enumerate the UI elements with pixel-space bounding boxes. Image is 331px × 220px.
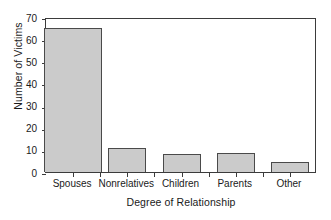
bar bbox=[163, 154, 201, 172]
x-axis-category-label: Parents bbox=[217, 178, 251, 189]
x-axis-boundary-tick-mark bbox=[154, 172, 155, 177]
y-axis-tick-label: 20 bbox=[26, 123, 37, 134]
y-axis-tick-mark bbox=[42, 19, 46, 20]
bar bbox=[44, 28, 102, 172]
y-axis-tick-label: 60 bbox=[26, 35, 37, 46]
x-axis-boundary-tick-mark bbox=[209, 172, 210, 177]
x-axis-category-label: Nonrelatives bbox=[99, 178, 155, 189]
y-axis-tick-label: 40 bbox=[26, 79, 37, 90]
x-axis-tick-mark bbox=[127, 172, 128, 177]
bar-chart-figure: Number of Victims 010203040506070 Degree… bbox=[0, 0, 331, 220]
y-axis-tick-label: 30 bbox=[26, 101, 37, 112]
bar bbox=[108, 148, 146, 172]
y-axis-tick-label: 0 bbox=[31, 168, 37, 179]
y-axis-tick-label: 70 bbox=[26, 13, 37, 24]
y-axis-tick-mark bbox=[42, 174, 46, 175]
x-axis-boundary-tick-mark bbox=[263, 172, 264, 177]
y-axis-title: Number of Victims bbox=[12, 0, 24, 146]
bar bbox=[217, 153, 255, 172]
y-axis-tick-label: 50 bbox=[26, 57, 37, 68]
x-axis-category-label: Other bbox=[276, 178, 301, 189]
x-axis-tick-mark bbox=[290, 172, 291, 177]
plot-area: 010203040506070 bbox=[45, 18, 316, 173]
x-axis-category-label: Spouses bbox=[53, 178, 92, 189]
x-axis-tick-mark bbox=[73, 172, 74, 177]
x-axis-title: Degree of Relationship bbox=[45, 196, 317, 208]
bar bbox=[271, 162, 309, 172]
y-axis-tick-label: 10 bbox=[26, 145, 37, 156]
x-axis-category-label: Children bbox=[162, 178, 199, 189]
plot-inner: 010203040506070 bbox=[46, 19, 315, 172]
x-axis-tick-mark bbox=[182, 172, 183, 177]
x-axis-boundary-tick-mark bbox=[100, 172, 101, 177]
x-axis-tick-mark bbox=[236, 172, 237, 177]
